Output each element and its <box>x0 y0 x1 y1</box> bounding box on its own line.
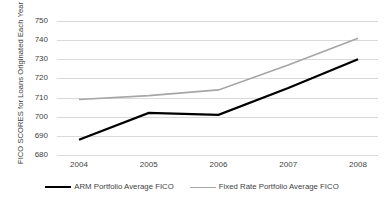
x-tick-label: 2005 <box>124 160 174 170</box>
x-tick-label: 2008 <box>333 160 383 170</box>
y-tick-label: 740 <box>18 36 48 44</box>
legend-item[interactable]: ARM Portfolio Average FICO <box>45 182 174 192</box>
y-axis-tick-labels: 680690700710720730740750 <box>18 0 48 170</box>
fico-line-chart: FICO SCORES for Loans Originated Each Ye… <box>0 0 384 201</box>
y-tick-label: 690 <box>18 132 48 140</box>
y-tick-label: 710 <box>18 94 48 102</box>
x-tick-label: 2006 <box>194 160 244 170</box>
legend-item[interactable]: Fixed Rate Portfolio Average FICO <box>190 182 339 192</box>
plot-area <box>57 21 378 155</box>
x-tick-label: 2004 <box>54 160 104 170</box>
gridline <box>57 155 378 156</box>
legend-swatch-icon <box>45 186 71 188</box>
legend-label: ARM Portfolio Average FICO <box>74 182 174 192</box>
x-axis-tick-labels: 20042005200620072008 <box>57 160 378 174</box>
y-tick-label: 700 <box>18 113 48 121</box>
series-line <box>79 59 358 139</box>
series-lines <box>57 21 378 155</box>
y-tick-label: 750 <box>18 17 48 25</box>
x-tick-label: 2007 <box>263 160 313 170</box>
y-tick-label: 720 <box>18 74 48 82</box>
legend-label: Fixed Rate Portfolio Average FICO <box>219 182 339 192</box>
y-tick-label: 730 <box>18 55 48 63</box>
legend-swatch-icon <box>190 187 216 188</box>
chart-legend: ARM Portfolio Average FICOFixed Rate Por… <box>0 180 384 194</box>
y-tick-label: 680 <box>18 151 48 159</box>
series-line <box>79 38 358 99</box>
